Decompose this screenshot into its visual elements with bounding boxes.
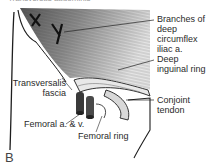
label-line: iliac a.	[157, 44, 205, 54]
label-line: Conjoint	[157, 95, 190, 105]
label-line: deep	[157, 24, 205, 34]
label-line: Branches of	[157, 14, 205, 24]
label-deep-inguinal-ring: Deep inguinal ring	[157, 54, 206, 74]
label-line: tendon	[157, 105, 190, 115]
femoral-artery	[76, 92, 84, 114]
label-line: fascia	[8, 88, 66, 98]
label-femoral-ring: Femoral ring	[78, 131, 129, 141]
panel-letter: B	[5, 150, 14, 165]
label-line: inguinal ring	[157, 64, 206, 74]
label-transversalis-fascia: Transversalis fascia	[8, 78, 66, 98]
label-line: Transversalis	[8, 78, 66, 88]
label-line: Deep	[157, 54, 206, 64]
femoral-vein	[86, 96, 94, 118]
label-femoral-artery-vein: Femoral a. & v.	[24, 119, 84, 129]
label-branches-deep-circumflex-iliac: Branches of deep circumflex iliac a.	[157, 14, 205, 54]
label-conjoint-tendon: Conjoint tendon	[157, 95, 190, 115]
inguinal-region-diagram: Transversus abdominis	[0, 0, 212, 168]
label-line: circumflex	[157, 34, 205, 44]
conjoint-tendon	[104, 90, 129, 120]
